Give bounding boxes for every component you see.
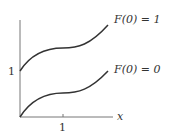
lower-curve-label: F(0) = 0 (114, 64, 160, 75)
curve-lower (20, 71, 108, 117)
y-tick-label: 1 (8, 66, 15, 77)
curve-upper (20, 25, 108, 71)
x-axis-label: x (117, 111, 123, 122)
upper-curve-label: F(0) = 1 (114, 14, 160, 25)
x-tick-label: 1 (59, 122, 66, 133)
